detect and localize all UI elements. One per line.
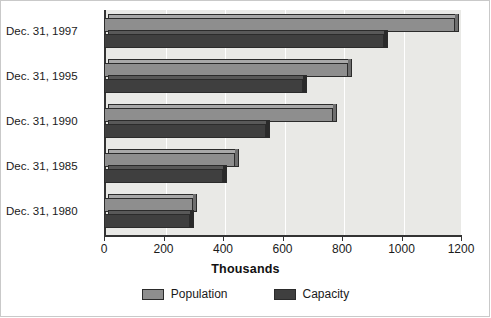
legend-swatch-population-icon (142, 289, 164, 300)
x-tick-label: 600 (272, 242, 292, 256)
axis-title: Thousands (0, 262, 491, 276)
bar-front-face (104, 169, 223, 183)
bar-front-face (104, 214, 190, 228)
gridline (463, 10, 464, 235)
category-label: Dec. 31, 1985 (6, 160, 100, 172)
bar-capacity-3[interactable] (104, 165, 223, 179)
x-tick-label: 0 (101, 242, 108, 256)
bar-capacity-4[interactable] (104, 210, 190, 224)
tick-mark (223, 235, 224, 241)
bar-population-3[interactable] (104, 149, 235, 163)
bar-side-face (333, 104, 337, 122)
tick-mark (283, 235, 284, 241)
bar-front-face (104, 34, 384, 48)
bar-capacity-1[interactable] (104, 75, 303, 89)
chart-legend: Population Capacity (0, 287, 491, 301)
bar-side-face (348, 59, 352, 77)
legend-label-population: Population (171, 287, 228, 301)
bar-side-face (223, 165, 227, 183)
bar-population-0[interactable] (104, 14, 455, 28)
tick-mark (461, 235, 462, 241)
bar-side-face (266, 120, 270, 138)
category-label: Dec. 31, 1995 (6, 70, 100, 82)
bar-side-face (455, 14, 459, 32)
bar-population-2[interactable] (104, 104, 333, 118)
bar-side-face (235, 149, 239, 167)
legend-item-capacity[interactable]: Capacity (274, 287, 350, 301)
gridline (404, 10, 405, 235)
tick-mark (164, 235, 165, 241)
bar-population-1[interactable] (104, 59, 348, 73)
bar-side-face (303, 75, 307, 93)
legend-swatch-capacity-icon (274, 289, 296, 300)
x-tick-label: 800 (332, 242, 352, 256)
category-label: Dec. 31, 1980 (6, 205, 100, 217)
bar-front-face (104, 124, 266, 138)
x-tick-label: 400 (213, 242, 233, 256)
tick-mark (402, 235, 403, 241)
category-label: Dec. 31, 1990 (6, 115, 100, 127)
tick-mark (342, 235, 343, 241)
bar-side-face (384, 30, 388, 48)
legend-item-population[interactable]: Population (142, 287, 228, 301)
x-tick-label: 200 (153, 242, 173, 256)
bar-capacity-0[interactable] (104, 30, 384, 44)
bar-side-face (190, 210, 194, 228)
legend-label-capacity: Capacity (303, 287, 350, 301)
bar-population-4[interactable] (104, 194, 193, 208)
tick-mark (104, 235, 105, 241)
x-tick-label: 1200 (448, 242, 475, 256)
category-label: Dec. 31, 1997 (6, 25, 100, 37)
bar-capacity-2[interactable] (104, 120, 266, 134)
bar-front-face (104, 79, 303, 93)
x-tick-label: 1000 (388, 242, 415, 256)
bar-chart: 020040060080010001200 Dec. 31, 1997Dec. … (0, 0, 491, 318)
